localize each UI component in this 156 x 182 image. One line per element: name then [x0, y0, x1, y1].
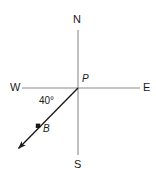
- label-north: N: [73, 14, 81, 25]
- compass-bearing-diagram: N S W E P B 40°: [0, 0, 156, 182]
- label-west: W: [10, 82, 20, 93]
- label-east: E: [143, 82, 150, 93]
- label-origin-p: P: [82, 74, 89, 84]
- point-b-marker: [36, 124, 40, 128]
- label-south: S: [74, 159, 81, 170]
- label-point-b: B: [43, 124, 50, 134]
- label-angle-40: 40°: [39, 96, 54, 106]
- diagram-canvas: [0, 0, 156, 182]
